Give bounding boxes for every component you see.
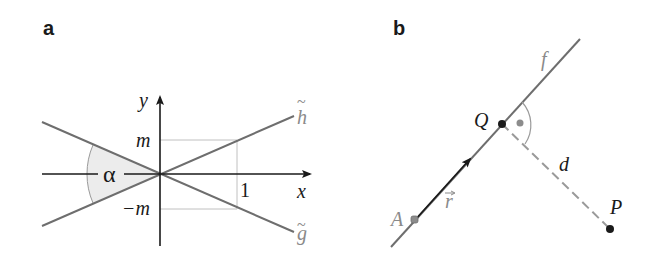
tick-one-label: 1 (240, 179, 250, 201)
line-g-label: g ~ (297, 216, 307, 245)
line-g (42, 122, 294, 232)
tilde-g: ~ (297, 216, 306, 233)
tilde-h: ~ (297, 93, 306, 110)
panel-a: a y x m −m 1 α h ~ g ~ (42, 17, 310, 246)
angle-alpha-label: α (103, 161, 116, 187)
vector-r-label: r (445, 190, 455, 212)
point-A (411, 216, 418, 223)
distance-d-label: d (559, 153, 570, 175)
figure: a y x m −m 1 α h ~ g ~ b (0, 0, 650, 266)
point-Q (498, 120, 506, 128)
x-axis-label: x (296, 180, 306, 202)
panel-b: b Q A P f d r (389, 17, 622, 247)
line-h-label: h ~ (297, 93, 307, 128)
point-P (606, 225, 614, 233)
y-axis-label: y (137, 89, 148, 112)
distance-d-line (502, 124, 610, 229)
line-f-label: f (541, 48, 549, 71)
right-angle-dot (517, 120, 524, 127)
point-P-label: P (609, 196, 622, 218)
tick-neg-m-label: −m (122, 197, 150, 219)
tick-m-label: m (136, 129, 150, 151)
panel-a-label: a (43, 17, 55, 39)
point-Q-label: Q (474, 109, 489, 131)
point-A-label: A (389, 208, 404, 230)
panel-b-label: b (393, 17, 405, 39)
vector-r (415, 159, 470, 220)
